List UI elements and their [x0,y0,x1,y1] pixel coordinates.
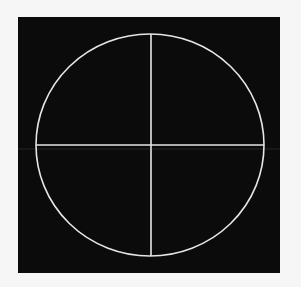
circle-crosshair-diagram [0,0,301,287]
diagram-canvas [0,0,301,287]
